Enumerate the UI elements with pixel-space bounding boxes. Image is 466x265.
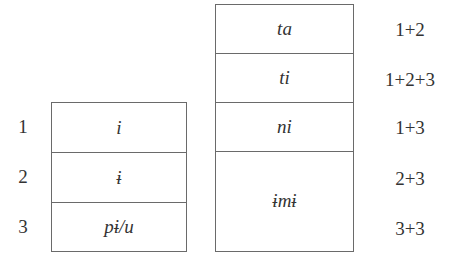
left-form-2: ɨ bbox=[116, 167, 121, 189]
right-form-4: ɨmɨ bbox=[272, 190, 296, 212]
left-paradigm-box: i ɨ pɨ/u bbox=[51, 102, 187, 252]
right-form-3: ni bbox=[277, 116, 292, 138]
combination-4a: 2+3 bbox=[395, 168, 425, 190]
right-cell-ti: ti bbox=[216, 53, 353, 102]
right-paradigm-box: ta ti ni ɨmɨ bbox=[215, 4, 354, 252]
left-form-1: i bbox=[116, 117, 121, 139]
left-cell-1: i bbox=[52, 103, 186, 152]
combination-1: 1+2 bbox=[395, 19, 425, 41]
combination-3: 1+3 bbox=[395, 117, 425, 139]
left-cell-3: pɨ/u bbox=[52, 202, 186, 251]
row-number-3: 3 bbox=[18, 216, 28, 238]
left-form-3: pɨ/u bbox=[104, 216, 134, 238]
right-cell-imi: ɨmɨ bbox=[216, 151, 353, 250]
right-cell-ta: ta bbox=[216, 5, 353, 53]
right-form-2: ti bbox=[279, 67, 290, 89]
combination-2: 1+2+3 bbox=[385, 69, 435, 91]
row-number-1: 1 bbox=[18, 116, 28, 138]
row-number-2: 2 bbox=[18, 166, 28, 188]
right-form-1: ta bbox=[277, 18, 292, 40]
left-cell-2: ɨ bbox=[52, 152, 186, 202]
right-cell-ni: ni bbox=[216, 102, 353, 151]
combination-4b: 3+3 bbox=[395, 218, 425, 240]
